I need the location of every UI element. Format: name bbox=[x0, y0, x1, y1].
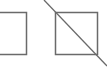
square-slash-icon[interactable] bbox=[44, 0, 107, 66]
square-outline-icon[interactable] bbox=[0, 13, 27, 55]
icon-canvas bbox=[0, 0, 107, 69]
